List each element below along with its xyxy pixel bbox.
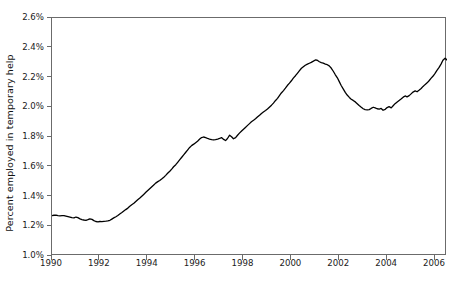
y-axis-tick-label: 2.2% (0, 71, 51, 83)
line-series-svg (52, 18, 447, 256)
series-line-percent-employed-in-temporary-help (52, 58, 447, 222)
plot-area (51, 17, 446, 255)
y-axis-tick-label: 2.4% (0, 41, 51, 53)
y-axis-tick-label: 2.0% (0, 100, 51, 112)
y-axis-tick-label: 1.2% (0, 219, 51, 231)
y-axis-tick-label: 2.6% (0, 11, 51, 23)
chart-figure: Percent employed in temporary help 1.0%1… (0, 0, 465, 286)
y-axis-tick-label: 1.6% (0, 160, 51, 172)
y-axis-tick-label: 1.4% (0, 190, 51, 202)
y-axis-tick-label: 1.8% (0, 130, 51, 142)
